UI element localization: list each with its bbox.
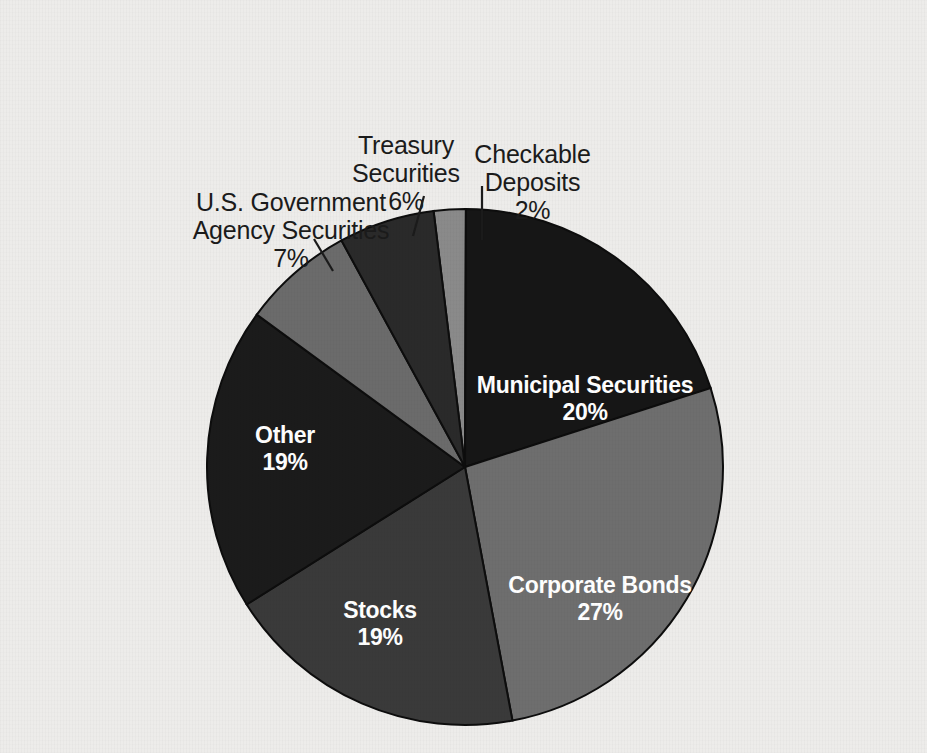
slice-label-text-municipal-securities: Municipal Securities xyxy=(477,372,693,398)
slice-value-stocks: 19% xyxy=(300,624,460,651)
slice-label-corporate-bonds: Corporate Bonds 27% xyxy=(500,545,700,653)
slice-label-stocks: Stocks 19% xyxy=(300,570,460,678)
slice-label-us-government-agency-securities: U.S. Government Agency Securities 7% xyxy=(176,160,406,300)
slice-label-text-other: Other xyxy=(255,422,315,448)
pie-chart-figure: Treasury Securities 6% Checkable Deposit… xyxy=(0,0,927,753)
slice-label-municipal-securities: Municipal Securities 20% xyxy=(460,345,710,453)
slice-label-other: Other 19% xyxy=(215,395,355,503)
slice-label-text-us-government-agency-securities: U.S. Government Agency Securities xyxy=(193,188,390,244)
slice-label-text-checkable-deposits: Checkable Deposits xyxy=(474,140,590,196)
slice-label-text-corporate-bonds: Corporate Bonds xyxy=(508,572,691,598)
slice-value-corporate-bonds: 27% xyxy=(500,599,700,626)
slice-value-checkable-deposits: 2% xyxy=(455,196,610,224)
slice-value-other: 19% xyxy=(215,449,355,476)
slice-value-us-government-agency-securities: 7% xyxy=(176,244,406,272)
slice-label-text-stocks: Stocks xyxy=(343,597,417,623)
slice-label-checkable-deposits: Checkable Deposits 2% xyxy=(455,112,610,252)
slice-value-municipal-securities: 20% xyxy=(460,399,710,426)
